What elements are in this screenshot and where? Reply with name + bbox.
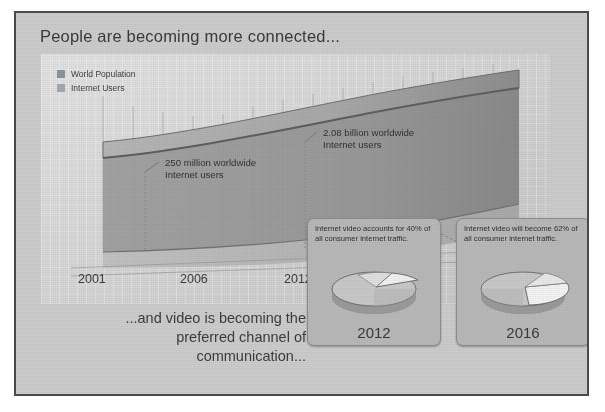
axis-tick-2001: 2001 (78, 272, 106, 286)
annotation-line-2: Internet users (165, 169, 256, 181)
pie-card-2012[interactable]: Internet video accounts for 40% of all c… (307, 218, 441, 346)
slide-frame: People are becoming more connected... (14, 11, 589, 396)
legend-item-world-population: World Population (57, 69, 136, 79)
pie-card-year: 2012 (308, 324, 440, 341)
pie-chart-2012 (318, 247, 430, 329)
pie-card-2016[interactable]: Internet video will become 62% of all co… (456, 218, 589, 346)
annotation-line-2: Internet users (323, 139, 414, 151)
chart-legend: World Population Internet Users (57, 69, 136, 97)
annotation-2-08-billion: 2.08 billion worldwide Internet users (323, 127, 414, 152)
legend-swatch-icon (57, 84, 65, 92)
legend-item-internet-users: Internet Users (57, 83, 136, 93)
annotation-line-1: 2.08 billion worldwide (323, 127, 414, 139)
annotation-250-million: 250 million worldwide Internet users (165, 157, 256, 182)
pie-card-description: Internet video will become 62% of all co… (464, 224, 584, 245)
pie-card-description: Internet video accounts for 40% of all c… (315, 224, 435, 245)
axis-tick-2006: 2006 (180, 272, 208, 286)
pie-chart-2016 (467, 247, 579, 329)
annotation-line-1: 250 million worldwide (165, 157, 256, 169)
legend-label: World Population (71, 69, 136, 79)
slide-caption: ...and video is becoming the preferred c… (111, 309, 306, 366)
legend-label: Internet Users (71, 83, 124, 93)
pie-card-year: 2016 (457, 324, 589, 341)
page-title: People are becoming more connected... (40, 27, 340, 46)
legend-swatch-icon (57, 70, 65, 78)
